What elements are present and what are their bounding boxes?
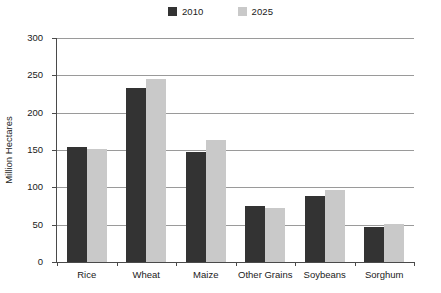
y-tick-label-250: 250: [27, 70, 43, 80]
y-tick-200: 200: [52, 113, 57, 114]
x-tick-4: [355, 262, 356, 266]
y-tick-label-100: 100: [27, 182, 43, 192]
legend-label-2025: 2025: [252, 6, 274, 17]
gridline-300: [57, 38, 414, 39]
legend-swatch-2010: [168, 7, 177, 16]
bar-group-rice: [67, 147, 107, 262]
y-tick-300: 300: [52, 38, 57, 39]
x-tick-3: [295, 262, 296, 266]
bar-wheat-2010[interactable]: [126, 88, 146, 262]
bar-other-grains-2010[interactable]: [245, 206, 265, 262]
bar-sorghum-2025[interactable]: [384, 224, 404, 262]
x-tick-label-rice: Rice: [77, 269, 96, 280]
legend-item-2025[interactable]: 2025: [238, 6, 274, 17]
x-tick-1: [176, 262, 177, 266]
bar-maize-2010[interactable]: [186, 152, 206, 263]
bar-chart: 20102025 Million Hectares 05010015020025…: [0, 0, 441, 293]
legend-swatch-2025: [238, 7, 247, 16]
bar-group-soybeans: [305, 190, 345, 262]
bar-soybeans-2010[interactable]: [305, 196, 325, 262]
x-tick-label-other-grains: Other Grains: [238, 269, 292, 280]
legend-label-2010: 2010: [182, 6, 204, 17]
bar-maize-2025[interactable]: [206, 140, 226, 262]
y-tick-250: 250: [52, 75, 57, 76]
gridline-50: [57, 225, 414, 226]
bar-rice-2010[interactable]: [67, 147, 87, 262]
y-tick-50: 50: [52, 225, 57, 226]
x-tick-label-wheat: Wheat: [133, 269, 160, 280]
y-tick-label-200: 200: [27, 108, 43, 118]
x-tick-label-maize: Maize: [193, 269, 218, 280]
y-tick-label-150: 150: [27, 145, 43, 155]
gridline-100: [57, 187, 414, 188]
bar-group-other-grains: [245, 206, 285, 262]
bar-wheat-2025[interactable]: [146, 79, 166, 262]
chart-legend: 20102025: [0, 6, 441, 17]
x-tick-0: [117, 262, 118, 266]
gridline-150: [57, 150, 414, 151]
y-axis-title: Million Hectares: [3, 116, 14, 184]
gridline-200: [57, 113, 414, 114]
legend-item-2010[interactable]: 2010: [168, 6, 204, 17]
bar-group-maize: [186, 140, 226, 262]
x-tick-label-sorghum: Sorghum: [365, 269, 404, 280]
bar-group-wheat: [126, 79, 166, 262]
y-tick-label-300: 300: [27, 33, 43, 43]
gridline-250: [57, 75, 414, 76]
y-tick-150: 150: [52, 150, 57, 151]
y-tick-label-0: 0: [38, 257, 43, 267]
bar-group-sorghum: [364, 224, 404, 262]
plot-area: 050100150200250300RiceWheatMaizeOther Gr…: [56, 38, 414, 263]
x-tick-2: [236, 262, 237, 266]
bar-sorghum-2010[interactable]: [364, 227, 384, 262]
x-tick-origin: [57, 262, 58, 266]
x-tick-label-soybeans: Soybeans: [304, 269, 346, 280]
bar-soybeans-2025[interactable]: [325, 190, 345, 262]
bar-rice-2025[interactable]: [87, 149, 107, 262]
y-tick-label-50: 50: [32, 220, 43, 230]
y-tick-100: 100: [52, 187, 57, 188]
bar-other-grains-2025[interactable]: [265, 208, 285, 263]
x-tick-5: [414, 262, 415, 266]
